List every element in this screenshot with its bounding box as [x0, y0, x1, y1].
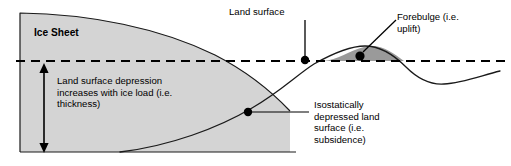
- label-isostatically-depressed-surface: Isostatically depressed land surface (i.…: [314, 99, 404, 145]
- label-land-surface-depression: Land surface depression increases with i…: [57, 75, 182, 110]
- label-ice-sheet: Ice Sheet: [34, 27, 79, 39]
- forebulge-leader-dot: [355, 51, 364, 60]
- land-surface-leader-dot: [301, 56, 309, 64]
- label-land-surface: Land surface: [229, 6, 284, 18]
- isostasy-diagram: Ice Sheet Land surface depression increa…: [0, 0, 511, 166]
- isostatic-leader-dot: [244, 108, 252, 116]
- label-forebulge: Forebulge (i.e. uplift): [397, 11, 473, 34]
